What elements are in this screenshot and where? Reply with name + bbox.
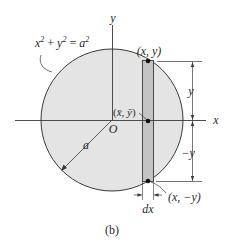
y-axis-label: y — [109, 11, 116, 25]
dim-arrow-bottom — [191, 176, 194, 181]
bottom-point-label: (x, −y) — [168, 190, 201, 204]
top-point-label: (x, y) — [137, 44, 162, 58]
dim-arrow-mid-down — [191, 121, 194, 126]
centroid-dot — [146, 119, 151, 124]
top-point-dot — [146, 59, 151, 64]
figure-caption: (b) — [105, 223, 119, 237]
dx-arrow-left — [138, 193, 143, 196]
dim-arrow-top — [191, 62, 194, 67]
diagram-canvas: x2 + y2 = a2 y x O a (x, y) (x̄, ȳ) (x, … — [0, 0, 231, 245]
circle-strip-diagram: x2 + y2 = a2 y x O a (x, y) (x̄, ȳ) (x, … — [0, 0, 231, 245]
equation-leader — [40, 55, 52, 72]
centroid-label: (x̄, ȳ) — [113, 106, 136, 119]
x-axis-label: x — [212, 113, 219, 127]
circle-equation: x2 + y2 = a2 — [34, 35, 89, 50]
lower-dimension-label: −y — [181, 146, 195, 160]
dx-label: dx — [142, 202, 154, 216]
dim-arrow-mid-up — [191, 115, 194, 120]
upper-dimension-label: y — [187, 84, 194, 98]
radius-label: a — [83, 138, 89, 152]
bottom-point-dot — [146, 179, 151, 184]
dx-arrow-right — [154, 193, 159, 196]
origin-label: O — [109, 122, 118, 136]
